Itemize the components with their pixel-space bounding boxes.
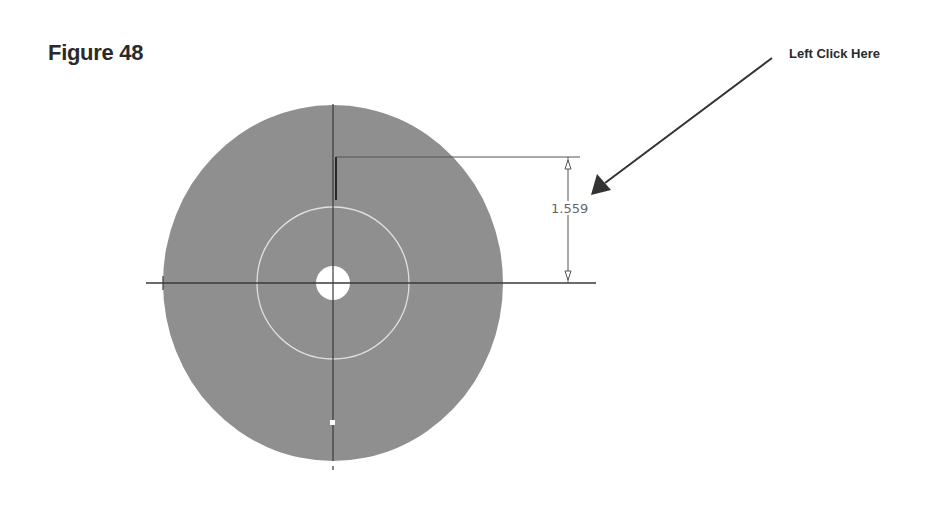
point-marker bbox=[330, 420, 335, 425]
cad-drawing: 1.559 bbox=[0, 0, 941, 505]
pointer-arrowhead-icon bbox=[591, 174, 611, 195]
pointer-arrow-line bbox=[605, 58, 772, 183]
dimension-value[interactable]: 1.559 bbox=[551, 201, 588, 216]
dimension-arrow-down-icon bbox=[565, 271, 571, 280]
dimension-arrow-up-icon bbox=[565, 160, 571, 169]
